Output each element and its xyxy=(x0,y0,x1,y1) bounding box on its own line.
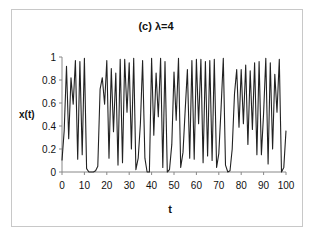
y-tick-label: 0.6 xyxy=(42,98,56,109)
x-tick-label: 90 xyxy=(258,180,270,191)
y-tick-label: 0.8 xyxy=(42,75,56,86)
y-tick-label: 0 xyxy=(50,167,56,178)
y-tick-label: 0.2 xyxy=(42,144,56,155)
plot-area: 00.20.40.60.810102030405060708090100 xyxy=(0,0,312,238)
x-tick-label: 50 xyxy=(168,180,180,191)
y-tick-label: 0.4 xyxy=(42,121,56,132)
x-tick-label: 80 xyxy=(236,180,248,191)
x-tick-label: 100 xyxy=(278,180,295,191)
x-tick-label: 20 xyxy=(101,180,113,191)
data-series-line xyxy=(62,58,286,172)
y-tick-label: 1 xyxy=(50,52,56,63)
x-tick-label: 10 xyxy=(79,180,91,191)
x-tick-label: 40 xyxy=(146,180,158,191)
x-tick-label: 70 xyxy=(213,180,225,191)
x-tick-label: 0 xyxy=(59,180,65,191)
x-tick-label: 60 xyxy=(191,180,203,191)
x-tick-label: 30 xyxy=(124,180,136,191)
